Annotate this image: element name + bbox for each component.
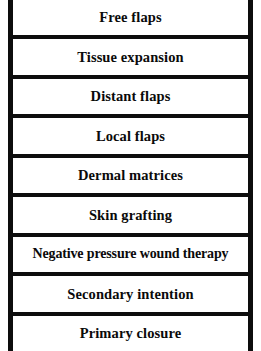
ladder-rung: Distant flaps [8,75,253,114]
ladder-rung-label: Tissue expansion [74,49,187,64]
ladder-rung: Tissue expansion [8,35,253,74]
ladder-rung-label: Distant flaps [88,89,174,104]
ladder-rung: Primary closure [8,312,253,351]
ladder-rung: Free flaps [8,0,253,35]
ladder-rung-label: Local flaps [93,128,168,143]
ladder-rung: Negative pressure wound therapy [8,233,253,272]
ladder-rung-label: Secondary intention [64,286,196,301]
reconstructive-ladder-figure: Free flaps Tissue expansion Distant flap… [0,0,261,351]
ladder-rail-right [248,0,253,351]
ladder-rung-label: Free flaps [96,10,164,25]
ladder-rung-label: Skin grafting [86,207,175,222]
ladder-rung: Skin grafting [8,193,253,232]
ladder-rail-left [8,0,13,351]
ladder-rung-list: Free flaps Tissue expansion Distant flap… [8,0,253,351]
ladder-rung: Dermal matrices [8,154,253,193]
ladder-rung-label: Negative pressure wound therapy [30,247,232,261]
ladder-rung-label: Dermal matrices [75,168,186,183]
ladder-rung: Local flaps [8,114,253,153]
ladder-rung-label: Primary closure [77,325,185,340]
ladder-rung: Secondary intention [8,272,253,311]
